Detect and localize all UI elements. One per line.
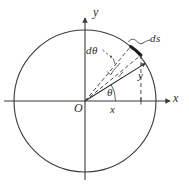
geometry-diagram-svg bbox=[0, 0, 189, 196]
figure-container: y x O θ dθ ds x y bbox=[0, 0, 189, 196]
dtheta-tick-right bbox=[117, 63, 120, 67]
x-axis-label: x bbox=[173, 92, 178, 104]
arc-element-ds bbox=[131, 47, 141, 56]
y-projection-label: y bbox=[138, 70, 143, 81]
x-projection-label: x bbox=[110, 104, 115, 115]
ds-brace bbox=[129, 39, 144, 44]
dtheta-angle-arc bbox=[111, 66, 117, 75]
y-axis-label: y bbox=[93, 6, 98, 18]
dtheta-leader-arrow bbox=[103, 50, 113, 58]
theta-label: θ bbox=[107, 87, 112, 98]
ds-label: ds bbox=[150, 33, 161, 44]
origin-label: O bbox=[74, 102, 83, 114]
dtheta-connector bbox=[113, 59, 115, 65]
radius-lower-dashed bbox=[85, 55, 141, 101]
d-theta-label: dθ bbox=[86, 45, 98, 56]
radius-tick-mark bbox=[119, 72, 124, 77]
